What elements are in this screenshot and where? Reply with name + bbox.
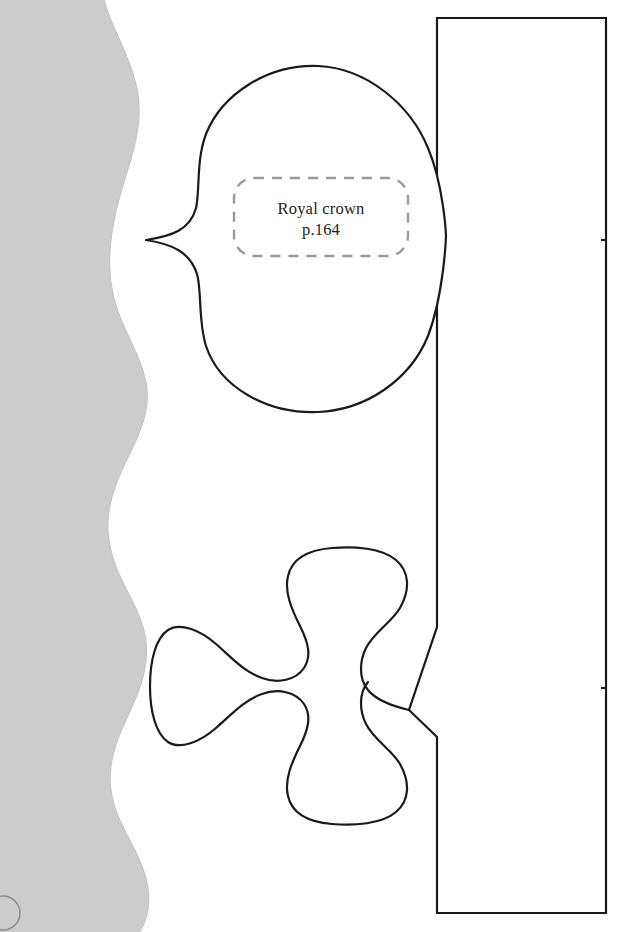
- rectangle-panel-piece: [409, 18, 606, 913]
- wavy-gray-band: [0, 0, 149, 932]
- pattern-label-line-1: Royal crown: [238, 198, 404, 219]
- pattern-label-line-2: p.164: [238, 219, 404, 240]
- pattern-artboard: [0, 0, 617, 932]
- pattern-page: Royal crown p.164: [0, 0, 617, 932]
- clover-piece: [150, 547, 409, 824]
